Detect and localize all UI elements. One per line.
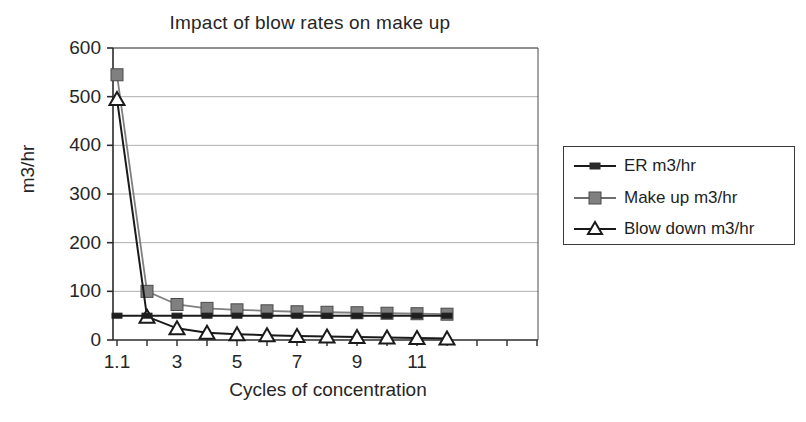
y-tick-label: 100 <box>49 281 101 300</box>
y-tick-label: 400 <box>49 135 101 154</box>
chart-legend: ER m3/hr Make up m3/hr Blow down m3/hr <box>563 146 795 245</box>
legend-marker-blow-down-icon <box>573 218 617 240</box>
y-tick-label: 300 <box>49 184 101 203</box>
x-tick-label: 1.1 <box>97 352 137 371</box>
chart-figure: Impact of blow rates on make up m3/hr Cy… <box>0 0 806 422</box>
y-tick-label: 0 <box>49 330 101 349</box>
legend-item-blow-down: Blow down m3/hr <box>564 213 796 244</box>
legend-item-make-up: Make up m3/hr <box>564 182 796 213</box>
legend-label-er: ER m3/hr <box>624 156 696 176</box>
y-tick-label: 500 <box>49 87 101 106</box>
legend-label-make-up: Make up m3/hr <box>624 188 737 208</box>
legend-item-er: ER m3/hr <box>564 150 796 181</box>
x-tick-label: 9 <box>337 352 377 371</box>
x-tick-label: 5 <box>217 352 257 371</box>
x-tick-label: 3 <box>157 352 197 371</box>
legend-marker-er-icon <box>573 155 617 177</box>
legend-marker-make-up-icon <box>573 187 617 209</box>
x-tick-label: 11 <box>397 352 437 371</box>
y-tick-label: 200 <box>49 233 101 252</box>
y-tick-label: 600 <box>49 38 101 57</box>
legend-label-blow-down: Blow down m3/hr <box>624 219 754 239</box>
x-tick-label: 7 <box>277 352 317 371</box>
